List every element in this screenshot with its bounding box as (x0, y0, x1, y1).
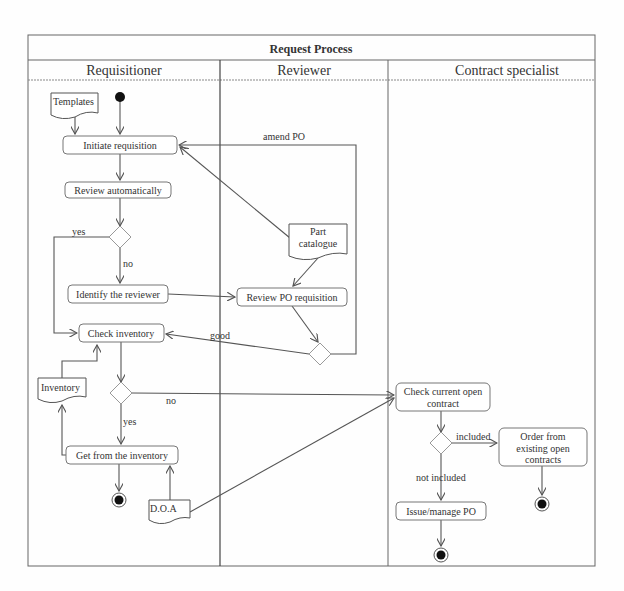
edge-catalogue-initiate (180, 147, 290, 238)
edge-get-inventory (62, 405, 66, 455)
svg-text:Issue/manage PO: Issue/manage PO (406, 506, 476, 517)
action-review-automatically: Review automatically (65, 182, 171, 198)
edge-identify-reviewpo (168, 294, 235, 297)
edge-label-yes: yes (123, 416, 136, 427)
svg-text:Get from the inventory: Get from the inventory (76, 450, 168, 461)
svg-text:Check current open: Check current open (404, 386, 482, 397)
activity-diagram: Request Process Requisitioner Reviewer C… (0, 0, 624, 591)
document-inventory: Inventory (38, 378, 86, 403)
svg-text:Order from: Order from (520, 431, 565, 442)
svg-text:Inventory: Inventory (41, 382, 80, 393)
decision-node (430, 432, 452, 454)
svg-text:Review automatically: Review automatically (74, 185, 161, 196)
svg-text:D.O.A: D.O.A (150, 503, 177, 514)
edge-label-amend-po: amend PO (263, 131, 305, 142)
action-check-inventory: Check inventory (79, 324, 164, 342)
svg-text:contract: contract (427, 398, 459, 409)
final-node (535, 497, 549, 511)
svg-text:contracts: contracts (525, 454, 561, 465)
edge-label-no: no (166, 395, 176, 406)
svg-text:catalogue: catalogue (299, 238, 338, 249)
action-identify-reviewer: Identify the reviewer (68, 285, 168, 303)
initial-node (115, 92, 125, 102)
edge-label-good: good (210, 330, 230, 341)
edge-label-included: included (456, 431, 490, 442)
edge-reviewpo-decision3 (292, 306, 318, 342)
edge-label-not-included: not included (416, 472, 466, 483)
edge-label-no: no (123, 258, 133, 269)
decision-node (110, 382, 132, 404)
action-issue-manage-po: Issue/manage PO (396, 502, 486, 520)
final-node (112, 493, 126, 507)
decision-node (309, 343, 331, 365)
document-part-catalogue: Part catalogue (289, 224, 347, 260)
edge-catalogue-reviewpo (293, 258, 318, 286)
svg-text:Initiate requisition: Initiate requisition (83, 140, 157, 151)
lane-header-requisitioner: Requisitioner (86, 63, 162, 78)
final-node (434, 548, 448, 562)
edge-inventory-check (62, 345, 97, 378)
lane-header-contract-specialist: Contract specialist (455, 63, 559, 78)
action-get-from-inventory: Get from the inventory (66, 446, 178, 464)
svg-text:Templates: Templates (53, 96, 94, 107)
lane-header-reviewer: Reviewer (277, 63, 331, 78)
action-check-open-contract: Check current open contract (396, 383, 490, 411)
diagram-title: Request Process (270, 42, 353, 56)
action-order-existing-contracts: Order from existing open contracts (499, 428, 587, 466)
svg-text:existing open: existing open (516, 443, 570, 454)
action-review-po-requisition: Review PO requisition (237, 288, 347, 306)
action-initiate-requisition: Initiate requisition (63, 136, 177, 154)
document-doa: D.O.A (149, 500, 190, 524)
svg-text:Check inventory: Check inventory (88, 328, 154, 339)
svg-text:Review PO requisition: Review PO requisition (246, 292, 337, 303)
edge-good (166, 334, 309, 354)
edge-label-yes: yes (72, 226, 85, 237)
edge-doa-contract (190, 398, 394, 512)
svg-text:Identify the reviewer: Identify the reviewer (76, 289, 161, 300)
svg-text:Part: Part (310, 226, 326, 237)
document-templates: Templates (51, 93, 98, 119)
decision-node (109, 226, 131, 248)
